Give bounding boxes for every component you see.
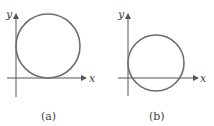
- circle: [128, 35, 184, 91]
- panel-b: y x (b): [117, 8, 207, 123]
- y-axis-label: y: [117, 8, 125, 21]
- x-axis-label: x: [200, 72, 207, 85]
- x-axis-label: x: [89, 72, 96, 85]
- y-axis-label: y: [5, 8, 13, 21]
- circle: [16, 14, 80, 78]
- panel-a: y x (a): [5, 8, 96, 123]
- figure: y x (a) y x (b): [0, 0, 214, 126]
- panel-caption: (a): [41, 110, 56, 123]
- panel-caption: (b): [149, 110, 165, 123]
